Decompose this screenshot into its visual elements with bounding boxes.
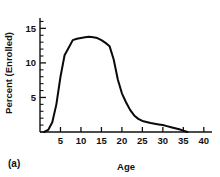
x-tick-label: 30 [158, 135, 169, 146]
y-axis-title: Percent (Enrolled) [3, 32, 14, 114]
y-axis-tick-marks [40, 21, 46, 132]
x-tick-label: 20 [117, 135, 128, 146]
x-axis-title: Age [117, 161, 135, 172]
x-tick-label: 10 [76, 135, 87, 146]
x-tick-label: 35 [178, 135, 189, 146]
chart-svg: 51015 510152025303540 Age Percent (Enrol… [0, 0, 220, 177]
x-tick-label: 25 [137, 135, 148, 146]
axes-group [40, 18, 212, 132]
y-tick-label: 5 [31, 92, 37, 103]
x-axis-tick-labels: 510152025303540 [58, 135, 209, 146]
x-tick-label: 5 [58, 135, 64, 146]
enrollment-curve [44, 37, 187, 132]
y-tick-label: 10 [25, 57, 36, 68]
panel-label-a: (a) [8, 158, 20, 169]
y-tick-label: 15 [25, 23, 36, 34]
x-tick-label: 15 [96, 135, 107, 146]
x-tick-label: 40 [199, 135, 210, 146]
figure-panel-a: 51015 510152025303540 Age Percent (Enrol… [0, 0, 220, 177]
y-axis-tick-labels: 51015 [25, 23, 36, 103]
